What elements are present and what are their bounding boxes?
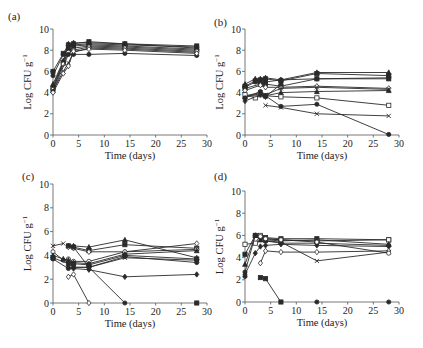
- data-marker-diamond: [315, 249, 319, 254]
- x-tick-label: 15: [317, 138, 327, 149]
- series-line: [68, 274, 89, 303]
- y-tick-label: 2: [236, 108, 241, 119]
- x-axis-label: Time (days): [105, 150, 156, 162]
- series-s13: [195, 301, 199, 305]
- x-tick-label: 30: [394, 305, 404, 316]
- y-tick-label: 0: [236, 130, 241, 141]
- data-marker-square: [243, 252, 247, 256]
- y-tick-label: 10: [39, 24, 49, 35]
- series-s9: [243, 274, 247, 278]
- data-marker-circle: [387, 300, 391, 304]
- x-tick-label: 20: [151, 138, 161, 149]
- x-tick-label: 5: [268, 138, 273, 149]
- x-tick-label: 5: [76, 138, 81, 149]
- y-tick-label: 8: [236, 45, 241, 56]
- data-marker-circle: [258, 234, 262, 238]
- panel-label: (a): [8, 10, 21, 23]
- x-axis-label: Time (days): [297, 317, 348, 329]
- y-tick-label: 4: [236, 87, 241, 98]
- data-marker-circle: [315, 240, 319, 244]
- x-tick-label: 15: [125, 306, 135, 317]
- y-tick-label: 6: [44, 66, 49, 77]
- data-marker-diamond: [279, 249, 283, 254]
- data-marker-diamond: [195, 272, 199, 277]
- x-tick-label: 10: [291, 305, 301, 316]
- y-tick-label: 0: [236, 297, 241, 308]
- data-marker-square: [279, 95, 283, 99]
- x-tick-label: 10: [291, 138, 301, 149]
- series-line: [260, 278, 281, 302]
- data-marker-square: [195, 301, 199, 305]
- data-marker-diamond: [123, 274, 127, 279]
- y-tick-label: 6: [44, 226, 49, 237]
- y-tick-label: 2: [236, 274, 241, 285]
- x-tick-label: 15: [317, 305, 327, 316]
- data-marker-square: [279, 300, 283, 304]
- y-tick-label: 10: [39, 179, 49, 190]
- y-axis-label: Log CFU g−1: [213, 54, 225, 110]
- x-tick-label: 20: [343, 138, 353, 149]
- figure-grid: (a)0246810051015202530Time (days)Log CFU…: [0, 0, 423, 348]
- y-tick-label: 8: [44, 202, 49, 213]
- data-marker-square: [315, 77, 319, 81]
- data-marker-circle: [315, 300, 319, 304]
- data-marker-square: [258, 78, 262, 82]
- y-tick-label: 6: [236, 230, 241, 241]
- series-s5: [243, 242, 391, 277]
- x-tick-label: 30: [202, 306, 212, 317]
- panel-label: (c): [22, 170, 35, 183]
- y-tick-label: 4: [44, 250, 49, 261]
- data-marker-diamond: [263, 243, 267, 248]
- data-marker-square: [315, 71, 319, 75]
- series-s10: [66, 265, 199, 280]
- x-tick-label: 0: [243, 138, 248, 149]
- y-tick-label: 0: [44, 130, 49, 141]
- series-s11: [66, 272, 91, 306]
- panel-a: (a)0246810051015202530Time (days)Log CFU…: [8, 10, 212, 162]
- y-tick-label: 4: [236, 252, 241, 263]
- data-marker-square: [315, 96, 319, 100]
- panel-d: (d)0246810051015202530Time (days)Log CFU…: [213, 170, 404, 329]
- panel-b: (b)0246810051015202530Time (days)Log CFU…: [213, 16, 404, 162]
- series-s11: [243, 81, 283, 103]
- panel-c: (c)0246810051015202530Time (days)Log CFU…: [21, 170, 212, 330]
- data-marker-square: [387, 103, 391, 107]
- data-marker-square: [123, 243, 127, 247]
- y-tick-label: 2: [44, 108, 49, 119]
- series-s10: [263, 103, 390, 118]
- y-tick-label: 4: [44, 87, 49, 98]
- data-marker-circle: [87, 52, 91, 56]
- data-marker-circle: [66, 244, 70, 248]
- x-tick-label: 30: [394, 138, 404, 149]
- data-marker-circle: [123, 301, 127, 305]
- x-tick-label: 30: [202, 138, 212, 149]
- data-marker-circle: [387, 251, 391, 255]
- x-tick-label: 5: [76, 306, 81, 317]
- y-tick-label: 2: [44, 274, 49, 285]
- series-line: [53, 53, 197, 91]
- data-marker-square: [243, 242, 247, 246]
- y-axis-label: Log CFU g−1: [213, 218, 225, 274]
- data-marker-circle: [279, 238, 283, 242]
- series-s10: [258, 275, 283, 304]
- data-marker-circle: [51, 257, 55, 261]
- y-tick-label: 0: [44, 298, 49, 309]
- y-tick-label: 6: [236, 66, 241, 77]
- four-panel-line-chart: (a)0246810051015202530Time (days)Log CFU…: [0, 0, 423, 348]
- x-tick-label: 10: [99, 306, 109, 317]
- x-tick-label: 0: [51, 138, 56, 149]
- data-marker-triangle: [122, 237, 127, 242]
- panel-label: (b): [214, 16, 227, 29]
- y-tick-label: 10: [231, 186, 241, 197]
- x-tick-label: 25: [176, 306, 186, 317]
- data-marker-circle: [387, 132, 391, 136]
- panel-label: (d): [214, 170, 227, 183]
- x-tick-label: 0: [51, 306, 56, 317]
- x-tick-label: 0: [243, 305, 248, 316]
- data-marker-circle: [71, 245, 75, 249]
- x-tick-label: 25: [368, 305, 378, 316]
- data-marker-circle: [66, 52, 70, 56]
- data-marker-circle: [253, 233, 257, 237]
- y-axis-label: Log CFU g−1: [21, 215, 33, 271]
- x-tick-label: 25: [176, 138, 186, 149]
